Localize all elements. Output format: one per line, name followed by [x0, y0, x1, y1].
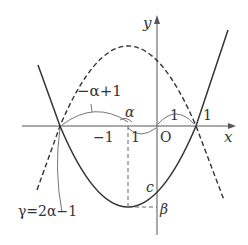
- label-gamma-eq: γ=2α−1: [18, 203, 77, 219]
- x-axis-label: x: [224, 128, 233, 146]
- label-c: c: [146, 179, 154, 195]
- y-axis-label: y: [142, 14, 152, 32]
- brace-neg-alpha-plus-1: [62, 112, 128, 125]
- label-beta: β: [159, 201, 168, 217]
- label-one-root: 1: [203, 107, 212, 123]
- label-neg-alpha-plus-1: −α+1: [77, 82, 122, 100]
- label-neg-one: −1: [93, 129, 114, 145]
- y-axis-arrow-icon: [154, 15, 160, 24]
- gamma-pointer: [57, 128, 62, 212]
- brace-tick: [91, 104, 92, 112]
- label-alpha: α: [125, 104, 135, 120]
- label-one-right-brace: 1: [170, 107, 179, 123]
- label-one-mid: 1: [131, 129, 140, 145]
- origin-label: O: [160, 129, 171, 145]
- graph-diagram: y x O −α+1 α 1 1 −1 1 c β γ=2α−1: [0, 0, 248, 245]
